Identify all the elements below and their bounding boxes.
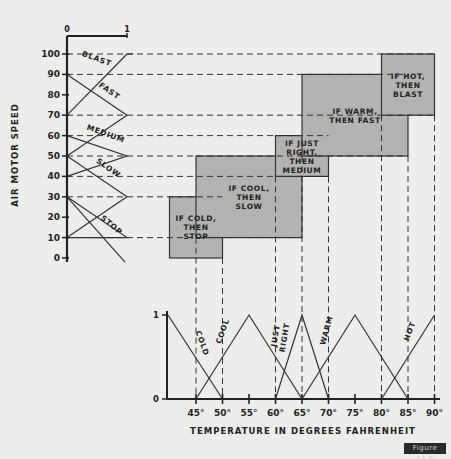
temp-tick-label: 75°	[346, 408, 363, 418]
speed-set-label: MEDIUM	[86, 123, 127, 145]
temp-set-label: COOL	[214, 317, 231, 345]
speed-tick-label: 50	[47, 151, 60, 161]
speed-set-label: STOP	[99, 213, 124, 236]
membership-label-1: 1	[124, 25, 130, 34]
rule-text: BLAST	[393, 90, 423, 99]
speed-tick-label: 10	[47, 233, 60, 243]
temp-tick-label: 45°	[187, 408, 204, 418]
temp-membership-label-1: 1	[153, 310, 159, 320]
temp-membership-label-0: 0	[153, 394, 159, 404]
fuzzy-rule-diagram: IF COLD,THENSTOPIF COOL,THENSLOWIF JUSTR…	[0, 0, 451, 459]
temp-tick-label: 85°	[399, 408, 416, 418]
rule-text: RIGHT,	[286, 148, 318, 157]
rule-text: THEN	[236, 193, 261, 202]
speed-set-label: FAST	[97, 80, 122, 101]
speed-tick-label: 40	[47, 171, 60, 181]
temp-tick-label: 60°	[267, 408, 284, 418]
speed-tick-label: 90	[47, 69, 60, 79]
rule-text: SLOW	[236, 202, 263, 211]
rule-text: THEN FAST	[329, 116, 381, 125]
temp-set-warm	[302, 315, 408, 399]
rule-text: IF JUST	[285, 139, 319, 148]
temp-set-cold	[168, 315, 223, 399]
temp-set-label: WARM	[318, 315, 335, 346]
speed-tick-label: 60	[47, 131, 60, 141]
fuzzy-logic-figure: IF COLD,THENSTOPIF COOL,THENSLOWIF JUSTR…	[0, 0, 451, 459]
temp-tick-label: 80°	[373, 408, 390, 418]
temp-tick-label: 55°	[240, 408, 257, 418]
rule-text: THEN	[395, 81, 420, 90]
speed-tick-label: 70	[47, 110, 60, 120]
speed-tick-label: 0	[54, 253, 60, 263]
membership-label-0: 0	[64, 25, 70, 34]
temp-tick-label: 90°	[426, 408, 443, 418]
rule-text: IF WARM,	[332, 107, 377, 116]
speed-set-label: BLAST	[81, 49, 113, 68]
temp-tick-label: 65°	[293, 408, 310, 418]
speed-axis-title: AIR MOTOR SPEED	[10, 103, 20, 206]
speed-tick-label: 100	[41, 49, 60, 59]
temp-axis-title: TEMPERATURE IN DEGREES FAHRENHEIT	[190, 426, 416, 436]
rule-text: IF HOT,	[391, 72, 425, 81]
rule-text: IF COOL,	[228, 184, 269, 193]
rule-text: THEN	[183, 223, 208, 232]
temp-set-label: HOT	[402, 320, 417, 342]
rule-text: IF COLD,	[175, 214, 216, 223]
figure-label: Figure 11.6	[404, 443, 446, 454]
temp-tick-label: 50°	[214, 408, 231, 418]
speed-tick-label: 20	[47, 212, 60, 222]
speed-tick-label: 80	[47, 90, 60, 100]
temp-tick-label: 70°	[320, 408, 337, 418]
speed-tick-label: 30	[47, 192, 60, 202]
